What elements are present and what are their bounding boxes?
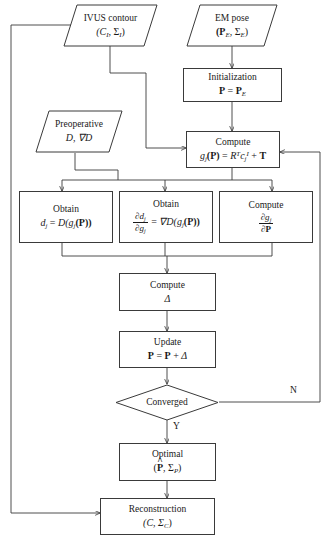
fraction-denominator: ∂P [259, 224, 273, 234]
node-label-line1: Compute [216, 137, 251, 148]
p-hat-symbol: P [157, 462, 163, 474]
node-reconstruction[interactable]: Reconstruction (C, ΣC) [100, 498, 215, 535]
node-label-line2: (C, ΣC) [143, 517, 172, 530]
node-initialization[interactable]: Initialization P = PE [183, 68, 282, 102]
node-compute-g[interactable]: Compute gj(P) = RTcjI + T [186, 131, 280, 168]
node-obtain-d[interactable]: Obtain dj = D(gj(P)) [19, 191, 113, 243]
wire-merge-bus [62, 243, 272, 256]
node-label-line1: EM pose [215, 13, 249, 24]
decision-label: Converged [146, 397, 188, 408]
node-label-line2: (P, ΣP) [154, 462, 182, 475]
node-label-line2: (CI, ΣI) [96, 26, 125, 39]
node-label-line1: Reconstruction [129, 504, 187, 515]
fraction-dg-dp: ∂gj∂P [259, 213, 274, 235]
node-label-line1: Compute [249, 200, 284, 211]
wire-preop-down [75, 153, 118, 180]
fraction-numerator: ∂gj [259, 213, 274, 224]
node-label-line1: Obtain [53, 204, 79, 215]
node-label-line1: IVUS contour [84, 13, 138, 24]
edge-label-yes: Y [173, 421, 180, 431]
fraction-denominator: ∂gj [133, 223, 148, 234]
node-update[interactable]: Update P = P + Δ [119, 331, 216, 368]
node-label-line2: P = PE [219, 85, 246, 98]
node-label-line1: Update [154, 337, 181, 348]
node-label-line2: D, ∇D [66, 132, 92, 144]
wire-ivus-to-reconstruction [11, 25, 110, 513]
node-optimal[interactable]: Optimal (P, ΣP) [119, 443, 216, 481]
node-ivus-contour[interactable]: IVUS contour (CI, ΣI) [63, 4, 158, 47]
node-formula-obtain-d: dj = D(gj(P)) [40, 217, 91, 230]
node-label-line1: Obtain [153, 199, 179, 210]
node-formula-compute-g: gj(P) = RTcjI + T [200, 150, 266, 163]
flowchart-canvas: IVUS contour (CI, ΣI) EM pose (PE, ΣE) I… [0, 0, 330, 538]
node-em-pose[interactable]: EM pose (PE, ΣE) [186, 4, 278, 47]
wire-no-feedback [219, 152, 320, 402]
node-converged-decision[interactable]: Converged [115, 384, 219, 421]
node-label-line2: (PE, ΣE) [216, 26, 248, 39]
node-label-line2: P = P + Δ [148, 350, 187, 362]
node-label-line1: Compute [150, 280, 185, 291]
node-formula-compute-dg-dp: ∂gj∂P [258, 213, 275, 235]
node-obtain-dd-dg[interactable]: Obtain ∂dj∂gj = ∇D(gj(P)) [119, 191, 213, 243]
node-label-line2: Δ [165, 293, 171, 305]
node-label-line1: Initialization [208, 72, 257, 83]
node-preoperative[interactable]: Preoperative D, ∇D [35, 110, 123, 153]
fraction-numerator: ∂dj [133, 212, 148, 223]
node-compute-dg-dp[interactable]: Compute ∂gj∂P [219, 191, 313, 243]
edge-label-no: N [290, 385, 297, 395]
fraction-dd-dg: ∂dj∂gj [133, 212, 148, 234]
node-label-line1: Preoperative [55, 119, 103, 130]
node-compute-delta[interactable]: Compute Δ [119, 273, 216, 311]
node-formula-obtain-dd-dg: ∂dj∂gj = ∇D(gj(P)) [132, 212, 200, 234]
